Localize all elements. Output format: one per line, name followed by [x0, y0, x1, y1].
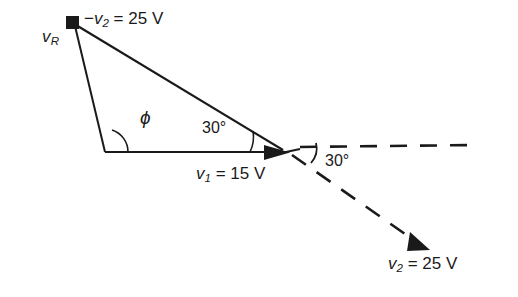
vector-diagram-svg — [0, 0, 518, 297]
label-v1-symbol: v — [196, 164, 205, 183]
label-v2-value: 25 — [422, 254, 441, 273]
label-v1: v1 = 15 V — [196, 165, 265, 185]
vector-vr-line — [75, 26, 105, 152]
label-angle-30-bottom-text: 30° — [325, 152, 349, 169]
label-phi-symbol: ϕ — [140, 107, 151, 128]
v2-arrowhead — [407, 232, 430, 251]
label-v1-unit: V — [254, 164, 265, 183]
label-v2-unit: V — [446, 254, 457, 273]
label-phi: ϕ — [140, 108, 151, 127]
apex-square-marker — [66, 16, 79, 29]
angle-30-top-arc — [250, 131, 253, 152]
dashed-v2-line — [292, 155, 418, 243]
label-angle-30-bottom: 30° — [325, 153, 349, 169]
label-angle-30-top-text: 30° — [202, 119, 226, 136]
label-v2: v2 = 25 V — [388, 255, 457, 275]
phi-angle-arc — [112, 130, 128, 152]
label-vr-text: v — [42, 27, 51, 46]
label-v1-subscript: 1 — [205, 172, 211, 184]
label-neg-v2-value: 25 — [128, 9, 147, 28]
phasor-diagram: vR −v2 = 25 V v1 = 15 V ϕ 30° 30° v2 = 2… — [0, 0, 518, 297]
label-v2-symbol: v — [388, 254, 397, 273]
dashed-horizontal-reference — [300, 145, 476, 147]
label-vr-subscript: R — [51, 35, 59, 47]
label-neg-v2-subscript: 2 — [102, 17, 108, 29]
label-v1-value: 15 — [230, 164, 249, 183]
label-neg-v2: −v2 = 25 V — [84, 10, 163, 30]
label-neg-v2-prefix: − — [84, 9, 94, 28]
label-vr: vR — [42, 28, 59, 48]
label-v1-equals: = — [216, 164, 226, 183]
label-v2-equals: = — [408, 254, 418, 273]
label-neg-v2-equals: = — [114, 9, 124, 28]
label-neg-v2-unit: V — [152, 9, 163, 28]
label-v2-subscript: 2 — [397, 262, 403, 274]
vector-neg-v2-line — [76, 25, 283, 150]
label-angle-30-top: 30° — [202, 120, 226, 136]
v1-arrow-tail-tick — [286, 149, 300, 152]
